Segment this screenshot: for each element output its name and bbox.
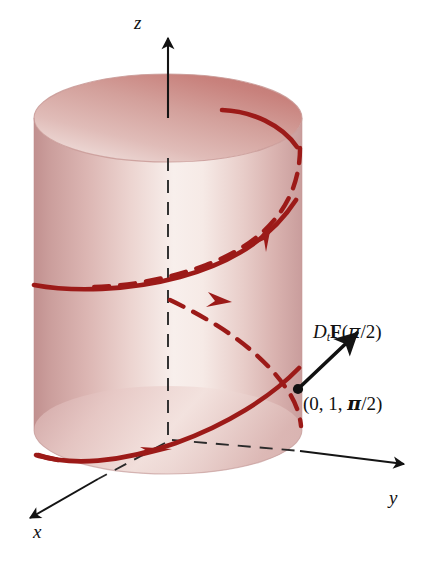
- x-axis: [30, 479, 98, 518]
- derivative-pi: π: [348, 320, 361, 342]
- point-pi: π: [347, 392, 361, 414]
- figure-canvas: z y x DtF(π/2) (0, 1, π/2): [0, 0, 430, 569]
- tangent-point-marker: [293, 384, 303, 394]
- z-axis-label: z: [134, 12, 142, 34]
- derivative-operator: D: [313, 321, 327, 342]
- derivative-close-paren: ): [375, 321, 381, 342]
- point-coord-y: 1,: [328, 393, 342, 414]
- helix-tail-left: [36, 455, 58, 460]
- y-axis-label: y: [389, 487, 398, 509]
- derivative-slash-two: /2: [361, 321, 376, 342]
- y-axis: [300, 451, 404, 464]
- derivative-label: DtF(π/2): [313, 320, 382, 345]
- point-slash-two: /2: [361, 393, 376, 414]
- point-coord-x: 0,: [309, 393, 323, 414]
- helix-cylinder-svg: [0, 0, 430, 569]
- x-axis-label: x: [33, 521, 42, 543]
- point-coordinate-label: (0, 1, π/2): [303, 392, 382, 415]
- derivative-vector: F: [330, 321, 342, 342]
- point-close-paren: ): [376, 393, 382, 414]
